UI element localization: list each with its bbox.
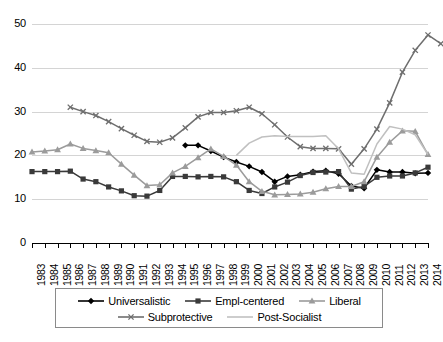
data-point — [195, 142, 201, 148]
data-point — [183, 174, 188, 179]
data-point — [272, 184, 277, 189]
data-point — [42, 169, 47, 174]
x-tick-label: 2011 — [394, 265, 405, 286]
x-tick-label: 1986 — [74, 264, 85, 286]
x-tick — [121, 243, 122, 248]
data-point — [132, 133, 137, 138]
plot-area — [32, 24, 428, 243]
x-tick — [300, 243, 301, 248]
x-tick-label: 2010 — [381, 264, 392, 286]
data-point — [362, 184, 367, 189]
x-tick — [428, 243, 429, 248]
legend-item-subprotective[interactable]: Subprotective — [117, 311, 213, 323]
legend-label: Subprotective — [148, 312, 213, 323]
data-point — [144, 194, 149, 199]
x-tick-label: 2000 — [253, 264, 264, 286]
x-tick-label: 1988 — [100, 264, 111, 286]
data-point — [438, 41, 443, 46]
x-tick — [160, 243, 161, 248]
data-point — [272, 122, 277, 127]
data-point — [106, 119, 111, 124]
data-point — [374, 175, 379, 180]
legend-swatch-diamond-icon — [77, 295, 105, 307]
data-point — [374, 127, 379, 132]
x-tick-label: 1984 — [49, 264, 60, 286]
data-point — [80, 176, 85, 181]
x-tick-label: 1995 — [189, 264, 200, 286]
series-line — [70, 35, 440, 164]
legend-item-liberal[interactable]: Liberal — [298, 295, 361, 307]
data-point — [425, 170, 431, 176]
x-tick — [45, 243, 46, 248]
data-point — [119, 188, 124, 193]
x-tick-label: 1996 — [202, 264, 213, 286]
x-tick-label: 1990 — [125, 264, 136, 286]
data-point — [425, 165, 430, 170]
data-point — [323, 169, 328, 174]
data-point — [362, 146, 367, 151]
data-point — [29, 169, 34, 174]
legend-label: Liberal — [329, 296, 361, 307]
data-point — [247, 188, 252, 193]
x-tick-label: 1994 — [177, 264, 188, 286]
x-tick-label: 1991 — [138, 264, 149, 286]
x-tick — [262, 243, 263, 248]
series-universalistic — [182, 142, 431, 191]
x-tick-label: 1993 — [164, 264, 175, 286]
legend-marker — [298, 295, 326, 307]
data-point — [310, 170, 315, 175]
data-point — [285, 180, 290, 185]
x-tick-label: 2008 — [355, 264, 366, 286]
x-tick-label: 2005 — [317, 264, 328, 286]
data-point — [298, 173, 303, 178]
x-tick — [415, 243, 416, 248]
data-point — [336, 169, 341, 174]
series-line — [185, 145, 428, 188]
x-tick-label: 1983 — [36, 264, 47, 286]
data-point — [349, 162, 354, 167]
x-tick — [351, 243, 352, 248]
legend-marker — [226, 311, 254, 323]
x-tick — [58, 243, 59, 248]
legend-marker — [184, 295, 212, 307]
data-point — [182, 142, 188, 148]
x-tick — [390, 243, 391, 248]
y-tick-label: 30 — [2, 106, 26, 117]
data-point — [284, 173, 290, 179]
x-tick-label: 1987 — [87, 264, 98, 286]
data-point — [413, 48, 418, 53]
x-tick-label: 2014 — [432, 264, 443, 286]
x-tick-label: 2007 — [343, 264, 354, 286]
x-tick-label: 2004 — [304, 264, 315, 286]
data-point — [119, 126, 124, 131]
x-tick-label: 2013 — [419, 264, 430, 286]
x-tick-label: 1999 — [240, 264, 251, 286]
x-tick — [185, 243, 186, 248]
x-tick — [32, 243, 33, 248]
data-point — [234, 179, 239, 184]
x-tick-label: 2012 — [406, 264, 417, 286]
x-tick-label: 1997 — [215, 264, 226, 286]
legend-swatch-none-icon — [226, 311, 254, 323]
x-tick — [70, 243, 71, 248]
legend-item-post-socialist[interactable]: Post-Socialist — [226, 311, 321, 323]
y-tick-label: 50 — [2, 18, 26, 29]
x-tick — [364, 243, 365, 248]
legend-item-universalistic[interactable]: Universalistic — [77, 295, 170, 307]
x-tick — [275, 243, 276, 248]
y-tick-label: 0 — [2, 237, 26, 248]
x-tick — [287, 243, 288, 248]
x-tick — [224, 243, 225, 248]
x-tick — [326, 243, 327, 248]
data-point — [55, 169, 60, 174]
data-point — [157, 188, 162, 193]
legend-row-primary: UniversalisticEmpl-centeredLiberal — [56, 293, 382, 309]
data-point — [400, 173, 405, 178]
data-point — [67, 141, 74, 147]
x-tick-label: 1992 — [151, 264, 162, 286]
x-tick — [173, 243, 174, 248]
data-point — [387, 173, 392, 178]
y-tick-label: 40 — [2, 62, 26, 73]
legend-item-empl-centered[interactable]: Empl-centered — [184, 295, 284, 307]
